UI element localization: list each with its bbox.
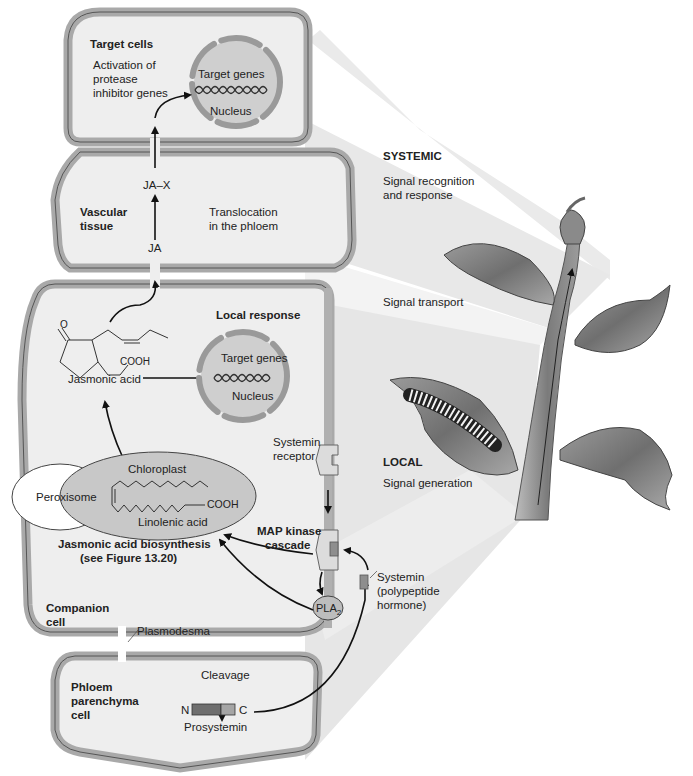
systemic-title: SYSTEMIC <box>383 149 442 163</box>
n-terminus-label: N <box>181 703 189 717</box>
target-genes-label: Target genes <box>198 67 265 81</box>
companion-cell-title-1: Companion <box>46 601 109 615</box>
local-response-title: Local response <box>216 308 300 322</box>
systemic-line-1: Signal recognition <box>383 174 474 188</box>
map-kinase-label-1: MAP kinase <box>257 524 321 538</box>
diagram-canvas <box>0 0 693 776</box>
systemin-receptor-label-1: Systemin <box>273 435 320 449</box>
local-nucleus-label: Nucleus <box>232 389 274 403</box>
jasmonic-acid-label: Jasmonic acid <box>68 372 141 386</box>
systemin-receptor-label-2: receptor <box>273 449 315 463</box>
systemic-line-2: and response <box>383 188 453 202</box>
pla2-text: PLA <box>316 602 337 614</box>
systemin-label-2: (polypeptide <box>377 584 440 598</box>
phloem-title-2: parenchyma <box>71 694 139 708</box>
translocation-label-2: in the phloem <box>209 219 278 233</box>
map-kinase-label-2: cascade <box>265 538 310 552</box>
jasmonic-carboxyl-label: COOH <box>120 355 150 369</box>
biosynthesis-label-1: Jasmonic acid biosynthesis <box>58 537 211 551</box>
target-cell-description-3: inhibitor genes <box>93 86 168 100</box>
chloroplast-label: Chloroplast <box>128 462 186 476</box>
jasmonic-oxygen-label: O <box>60 318 68 332</box>
pla2-subscript: 2 <box>337 608 341 617</box>
companion-cell-title-2: cell <box>46 615 65 629</box>
phloem-title-1: Phloem <box>71 680 113 694</box>
signal-generation-label: Signal generation <box>383 476 473 490</box>
translocation-label-1: Translocation <box>209 205 278 219</box>
target-cell-description-2: protease <box>93 72 138 86</box>
vascular-tissue-title-1: Vascular <box>80 205 127 219</box>
vascular-tissue-title-2: tissue <box>80 219 113 233</box>
local-title: LOCAL <box>383 455 423 469</box>
cleavage-label: Cleavage <box>201 668 250 682</box>
local-nucleus <box>199 332 287 420</box>
pla2-label: PLA2 <box>316 601 341 620</box>
biosynthesis-label-2: (see Figure 13.20) <box>80 551 177 565</box>
ja-x-label: JA–X <box>143 178 171 192</box>
target-cell-description-1: Activation of <box>93 58 156 72</box>
systemin-label-3: hormone) <box>377 598 426 612</box>
signal-transport-label: Signal transport <box>383 295 464 309</box>
peroxisome-label: Peroxisome <box>36 490 97 504</box>
prosystemin-label: Prosystemin <box>184 720 247 734</box>
plasmodesma-gap <box>118 626 126 662</box>
systemin-peptide <box>360 575 368 589</box>
linolenic-acid-label: Linolenic acid <box>138 515 208 529</box>
prosystemin-bar <box>192 704 235 715</box>
plasmodesma-label: Plasmodesma <box>137 624 210 638</box>
target-nucleus-label: Nucleus <box>210 104 252 118</box>
phloem-title-3: cell <box>71 708 90 722</box>
target-cells-title: Target cells <box>90 37 153 51</box>
local-target-genes-label: Target genes <box>221 351 288 365</box>
systemin-label-1: Systemin <box>377 570 424 584</box>
ja-label: JA <box>148 241 161 255</box>
c-terminus-label: C <box>239 703 247 717</box>
linolenic-carboxyl-label: COOH <box>207 497 239 511</box>
